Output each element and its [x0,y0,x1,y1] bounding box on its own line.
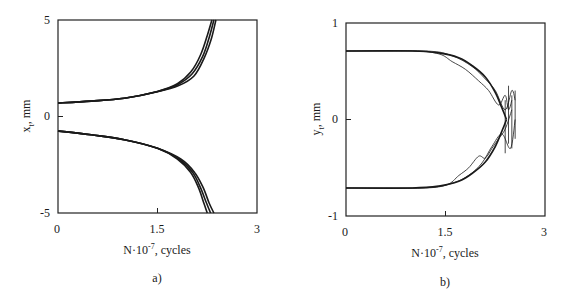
x-axis-title-b: N·10-7, cycles [411,245,479,260]
xtick-label-3-b: 3 [541,225,547,239]
data-line [58,131,207,213]
ytick-label-top-b: 1 [332,16,338,30]
data-curves-b [346,51,515,189]
plot-frame-a [58,20,257,213]
data-line [346,120,507,189]
xtick-label-1.5-b: 1.5 [438,225,453,239]
data-line [58,131,211,213]
xtick-label-1.5-a: 1.5 [150,222,165,236]
xtick-label-0-a: 0 [54,222,60,236]
xtick-label-0-b: 0 [342,225,348,239]
panel-label-a: a) [152,271,161,285]
ytick-label-bottom-b: -1 [328,209,338,223]
data-line [58,20,214,103]
y-axis-title-b: yt, mm [309,102,326,136]
data-line [346,51,507,120]
y-axis-title-a: xt, mm [19,99,36,133]
ytick-label-mid-a: 0 [44,109,50,123]
data-line [346,120,515,189]
data-line [58,20,212,103]
ytick-label-bottom-a: -5 [40,206,50,220]
panel-label-b: b) [440,275,450,289]
x-axis-title-a: N·10-7, cycles [123,242,191,257]
ytick-label-mid-b: 0 [332,112,338,126]
xtick-label-3-a: 3 [254,222,260,236]
chart-panel-b: 1 0 -1 0 1.5 3 N·10-7, cycles yt, mm b) [309,16,547,289]
data-curves-a [58,20,216,213]
figure: 5 0 -5 0 1.5 3 N·10-7, cycles xt, mm a) … [0,0,567,305]
data-line [58,20,216,103]
data-line [346,51,515,110]
data-line [346,110,512,188]
chart-panel-a: 5 0 -5 0 1.5 3 N·10-7, cycles xt, mm a) [19,13,260,285]
ytick-label-top-a: 5 [44,13,50,27]
